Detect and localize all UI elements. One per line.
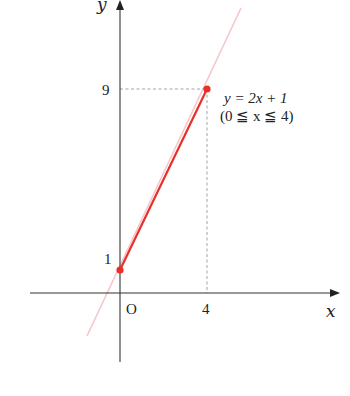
y-tick-label-9: 9: [102, 82, 110, 98]
y-tick-label-1: 1: [104, 251, 112, 267]
end-point: [203, 85, 210, 92]
domain-label: (0 ≦ x ≦ 4): [220, 108, 294, 125]
x-axis-label: x: [326, 301, 336, 321]
start-point: [116, 266, 123, 273]
x-tick-label-4: 4: [202, 301, 210, 317]
origin-label: O: [126, 301, 137, 317]
coordinate-plane: y x O 4 1 9 y = 2x + 1 (0 ≦ x ≦ 4): [0, 0, 350, 396]
extended-line: [87, 8, 241, 336]
function-segment: [120, 89, 207, 270]
equation-label: y = 2x + 1: [222, 90, 288, 106]
y-axis-label: y: [96, 0, 107, 14]
